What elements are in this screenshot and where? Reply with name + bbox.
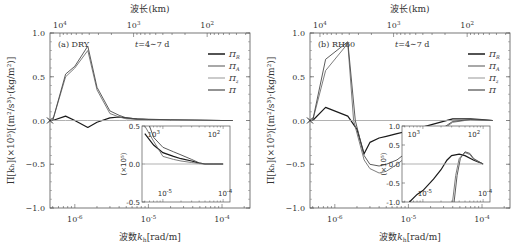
inset-y-tick-label: 0.5 (129, 123, 140, 131)
inset: 1.00.50.0-0.5-1.010-510-4103102(×10⁵) (380, 123, 493, 207)
y-tick-label: −0.5 (286, 160, 305, 169)
inset-y-tick-label: 0.5 (389, 142, 400, 150)
y-axis-title: Π[kₕ](×10⁵)[(m²/s³)·(kg/m²)] (6, 57, 16, 185)
x-axis-title: 波数kh[rad/m] (119, 231, 180, 243)
top-x-tick-label: 102 (460, 20, 474, 30)
inset-y-axis-title: (×10⁵) (120, 152, 128, 175)
top-axis-title: 波长(km) (130, 3, 169, 14)
time-label: t=4∼7 d (395, 40, 429, 49)
inset-y-tick-label: 0.0 (129, 161, 140, 169)
x-tick-label: 10-4 (474, 214, 490, 224)
inset-y-tick-label: -0.5 (386, 180, 400, 188)
x-tick-label: 10-5 (401, 214, 417, 224)
legend-label: Π (488, 86, 497, 95)
y-tick-label: 0.0 (32, 117, 45, 126)
legend-label: Πz (488, 74, 499, 84)
panel-b: 1.00.50.0−0.5−1.010-610-510-4104103102波数… (266, 3, 510, 243)
series-line-pi-A (53, 51, 233, 121)
inset-y-tick-label: -1.0 (386, 199, 400, 207)
legend-label: ΠR (488, 50, 500, 60)
top-x-tick-label: 104 (53, 20, 67, 30)
legend-label: ΠR (228, 50, 240, 60)
inset-y-axis-title: (×10⁵) (380, 152, 388, 175)
top-x-tick-label: 103 (387, 20, 401, 30)
panel-a: 1.00.50.0−0.5−1.010-610-510-4104103102波数… (6, 3, 250, 243)
top-axis-title: 波长(km) (390, 3, 429, 14)
top-x-tick-label: 103 (127, 20, 141, 30)
x-tick-label: 10-6 (67, 214, 83, 224)
y-tick-label: −1.0 (26, 204, 45, 213)
y-axis-title: Π[kₕ](×10⁵)[(m²/s³)·(kg/m²)] (266, 57, 276, 185)
x-axis-title: 波数kh[rad/m] (379, 231, 440, 243)
y-tick-label: 1.0 (292, 29, 305, 38)
y-tick-label: 0.5 (292, 73, 305, 82)
inset-x-tick-label: 10-4 (478, 188, 493, 198)
y-tick-label: 0.0 (292, 117, 305, 126)
legend-label: Π (228, 86, 237, 95)
inset-x-tick-label: 10-4 (218, 188, 233, 198)
y-tick-label: −0.5 (26, 160, 45, 169)
top-x-tick-label: 102 (200, 20, 214, 30)
x-tick-label: 10-4 (214, 214, 230, 224)
time-label: t=4∼7 d (135, 40, 169, 49)
x-tick-label: 10-5 (141, 214, 157, 224)
panel-label: (a) DRY (58, 40, 90, 49)
legend-label: Πz (228, 74, 239, 84)
legend-label: ΠA (228, 62, 240, 72)
inset-y-tick-label: -0.5 (126, 199, 140, 207)
top-x-tick-label: 104 (313, 20, 327, 30)
inset-y-tick-label: 1.0 (389, 123, 400, 131)
series-line-pi-total (53, 46, 233, 120)
inset: 0.50.0-0.510-510-4103102(×10⁵) (120, 123, 233, 207)
figure: 1.00.50.0−0.5−1.010-610-510-4104103102波数… (0, 0, 517, 245)
inset-y-tick-label: 0.0 (389, 161, 400, 169)
y-tick-label: 1.0 (32, 29, 45, 38)
x-tick-label: 10-6 (327, 214, 343, 224)
y-tick-label: 0.5 (32, 73, 45, 82)
panel-label: (b) RH60 (318, 40, 355, 49)
legend-label: ΠA (488, 62, 500, 72)
y-tick-label: −1.0 (286, 204, 305, 213)
